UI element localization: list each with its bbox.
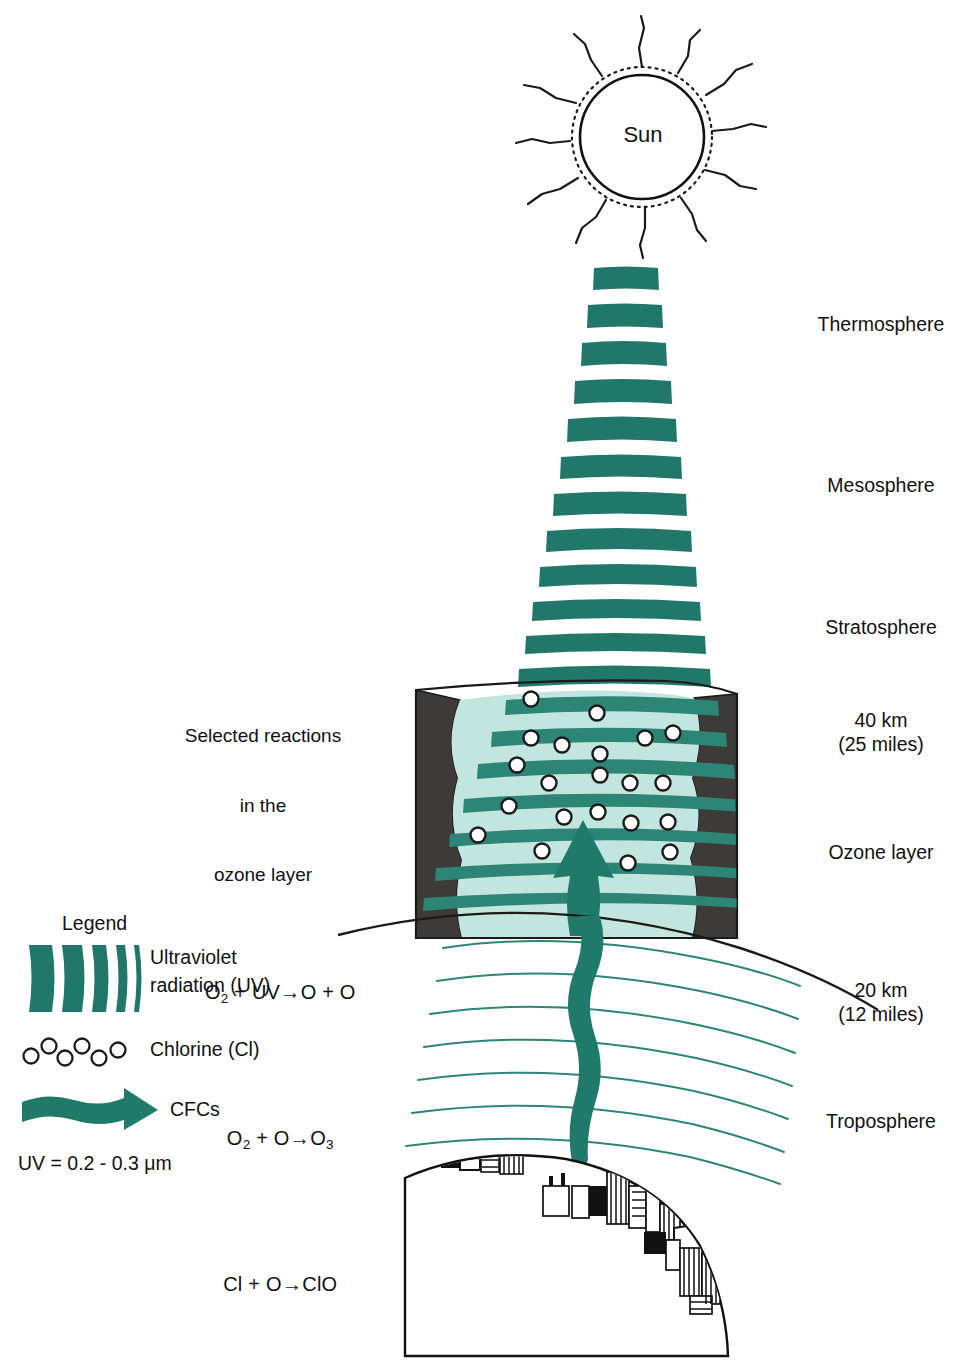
- troposphere-region: [338, 913, 878, 1184]
- legend-label-uv-line1: Ultraviolet: [150, 946, 237, 970]
- rx2-left-rest: + O: [250, 1127, 289, 1149]
- rx2-right: O: [310, 1127, 326, 1149]
- label-troposphere: Troposphere: [806, 1110, 956, 1134]
- rx3-right: ClO: [302, 1273, 337, 1295]
- label-ozone-layer: Ozone layer: [806, 841, 956, 865]
- reactions-block: Selected reactions in the ozone layer O2…: [140, 678, 386, 1367]
- legend-label-uv-line2: radiation (UV): [150, 974, 270, 998]
- uv-bars-icon: [29, 945, 142, 1012]
- legend-label-chlorine: Chlorine (Cl): [150, 1038, 259, 1062]
- rx3-arrow-icon: →: [282, 1273, 303, 1295]
- reaction-equation-3: Cl + O→ClO: [140, 1247, 386, 1321]
- reactions-heading-line2: in the: [140, 794, 386, 817]
- uv-beam-icon: [518, 267, 711, 688]
- legend-title: Legend: [62, 912, 127, 936]
- label-thermosphere: Thermosphere: [806, 313, 956, 337]
- cfc-arrow-icon-legend: [22, 1088, 158, 1130]
- label-stratosphere: Stratosphere: [806, 616, 956, 640]
- ozone-diagram: Sun Thermosphere Mesosphere Stratosphere…: [0, 0, 966, 1368]
- rx1-right: O + O: [301, 981, 356, 1003]
- sun-label: Sun: [604, 122, 682, 149]
- label-mesosphere: Mesosphere: [806, 474, 956, 498]
- legend-graphics: [22, 945, 158, 1130]
- rx1-arrow-icon: →: [280, 981, 301, 1003]
- rx3-left-rest: + O: [243, 1273, 282, 1295]
- legend-footnote-uv-wavelength: UV = 0.2 - 0.3 μm: [18, 1152, 172, 1176]
- ozone-layer-block: [416, 680, 767, 938]
- rx3-left: Cl: [223, 1273, 242, 1295]
- chlorine-circles-icon: [24, 1039, 126, 1066]
- legend-label-cfcs: CFCs: [170, 1098, 220, 1122]
- city-skyline-left: [441, 1124, 523, 1174]
- label-altitude-40km: 40 km(25 miles): [806, 709, 956, 757]
- rx2-right-sub: 3: [326, 1137, 334, 1152]
- reactions-heading-line3: ozone layer: [140, 863, 386, 886]
- rx2-left: O: [227, 1127, 243, 1149]
- label-altitude-20km: 20 km(12 miles): [806, 979, 956, 1027]
- rx2-arrow-icon: →: [290, 1127, 311, 1149]
- reactions-heading-line1: Selected reactions: [140, 724, 386, 747]
